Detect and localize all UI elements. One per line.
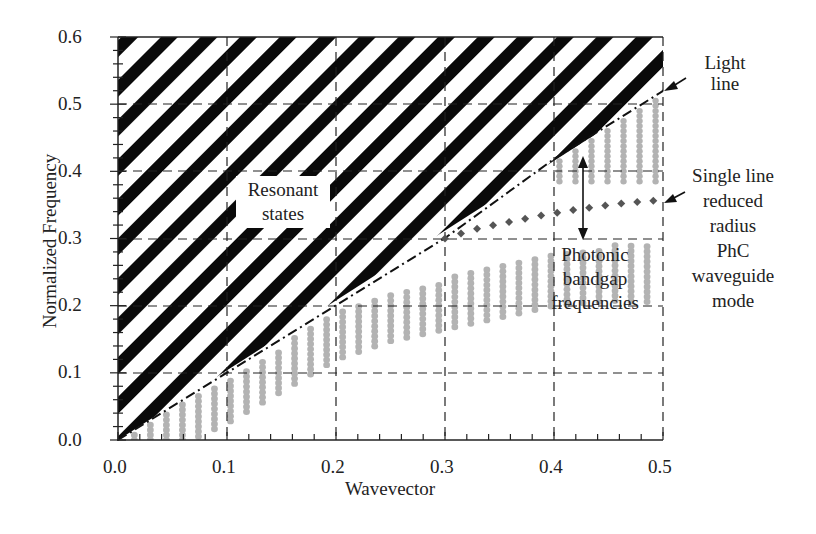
light-line-label: Light line [690, 52, 760, 94]
x-tick-label: 0.3 [430, 456, 454, 477]
y-tick-label: 0.6 [58, 26, 82, 47]
resonant-line-2: states [242, 202, 324, 226]
wg-text-3: radius [668, 213, 798, 238]
y-tick-label: 0.5 [58, 93, 82, 114]
pbg-text-3: frequencies [540, 291, 650, 315]
x-tick-label: 0.2 [321, 456, 345, 477]
y-axis-title: Normalized Frequency [39, 141, 61, 341]
x-tick-label: 0.0 [103, 456, 127, 477]
resonant-states-label: Resonant states [236, 176, 330, 228]
resonant-line-1: Resonant [242, 178, 324, 202]
light-line-text-2: line [690, 73, 760, 94]
wg-text-6: mode [668, 288, 798, 313]
wg-text-1: Single line [668, 163, 798, 188]
wg-text-4: PhC [668, 238, 798, 263]
x-axis-title: Wavevector [330, 478, 450, 500]
light-line-arrow [664, 78, 686, 91]
light-line-text-1: Light [690, 52, 760, 73]
x-tick-label: 0.1 [212, 456, 236, 477]
y-tick-label: 0.0 [58, 429, 82, 450]
y-tick-label: 0.3 [58, 227, 82, 248]
x-tick-label: 0.5 [648, 456, 672, 477]
y-tick-label: 0.1 [58, 361, 82, 382]
y-tick-label: 0.2 [58, 294, 82, 315]
waveguide-mode-label: Single line reduced radius PhC waveguide… [668, 163, 798, 313]
wg-text-2: reduced [668, 188, 798, 213]
y-tick-label: 0.4 [58, 160, 82, 181]
photonic-bandgap-label: Photonic bandgap frequencies [540, 243, 650, 315]
x-tick-label: 0.4 [539, 456, 563, 477]
bandgap-arrow [578, 156, 588, 240]
wg-text-5: waveguide [668, 263, 798, 288]
pbg-text-1: Photonic [540, 243, 650, 267]
pbg-text-2: bandgap [540, 267, 650, 291]
